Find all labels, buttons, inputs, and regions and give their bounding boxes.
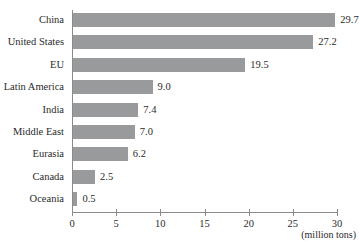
category-label: EU	[0, 59, 64, 71]
category-axis-labels: ChinaUnited StatesEULatin AmericaIndiaMi…	[0, 10, 68, 212]
category-label: United States	[0, 36, 64, 48]
bar	[73, 58, 245, 72]
x-axis-tick	[116, 209, 117, 216]
bar	[73, 125, 135, 139]
category-label: Oceania	[0, 193, 64, 205]
bar	[73, 103, 138, 117]
bar	[73, 170, 95, 184]
plot-area: 29.727.219.59.07.47.06.22.50.5	[72, 10, 338, 212]
axis-unit-label: (million tons)	[301, 229, 356, 240]
x-axis-tick-label: 15	[190, 218, 220, 230]
x-axis-tick	[249, 209, 250, 216]
bar-value-label: 27.2	[318, 36, 336, 48]
category-label: India	[0, 104, 64, 116]
x-axis-tick	[337, 209, 338, 216]
bar-value-label: 9.0	[158, 81, 171, 93]
x-axis-tick	[160, 209, 161, 216]
category-label: Eurasia	[0, 148, 64, 160]
bar-value-label: 7.4	[143, 104, 156, 116]
bar-value-label: 29.7	[340, 14, 358, 26]
chart-title-clipped	[104, 0, 254, 3]
x-axis-tick	[205, 209, 206, 216]
bar	[73, 147, 128, 161]
x-axis-tick-label: 10	[145, 218, 175, 230]
category-label: Latin America	[0, 81, 64, 93]
bar-value-label: 0.5	[82, 193, 95, 205]
x-axis-tick-label: 5	[101, 218, 131, 230]
bar-value-label: 6.2	[133, 148, 146, 160]
category-label: China	[0, 14, 64, 26]
bar	[73, 35, 313, 49]
x-axis-tick-label: 25	[278, 218, 308, 230]
bar	[73, 80, 153, 94]
bar	[73, 192, 77, 206]
x-axis-tick-label: 0	[57, 218, 87, 230]
bar-value-label: 2.5	[100, 171, 113, 183]
category-label: Canada	[0, 171, 64, 183]
x-axis-tick-label: 20	[234, 218, 264, 230]
x-axis-tick-label: 30	[322, 218, 352, 230]
bar-value-label: 19.5	[250, 59, 268, 71]
x-axis-tick	[293, 209, 294, 216]
bar-value-label: 7.0	[140, 126, 153, 138]
category-label: Middle East	[0, 126, 64, 138]
bar	[73, 13, 335, 27]
x-axis-tick	[72, 209, 73, 216]
